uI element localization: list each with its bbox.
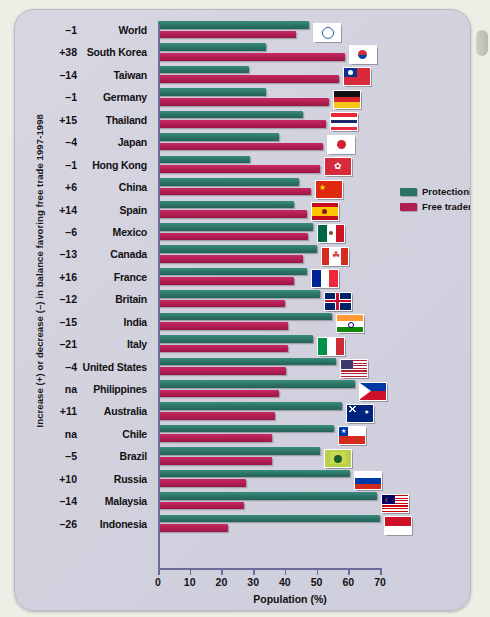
protectionists-bar[interactable] — [158, 201, 294, 209]
free-traders-bar[interactable] — [158, 75, 339, 83]
protectionists-bar[interactable] — [158, 43, 266, 51]
protectionists-bar[interactable] — [158, 290, 320, 298]
bar-group: ✿ — [144, 156, 470, 175]
chart-row: –1World — [15, 19, 470, 41]
chart-row: –14Taiwan — [15, 64, 470, 86]
protectionists-bar[interactable] — [158, 223, 313, 231]
chart-row: –4Japan — [15, 131, 470, 153]
y-axis-line — [158, 24, 160, 569]
united-states-flag — [340, 359, 368, 378]
russia-flag — [354, 471, 382, 490]
free-traders-bar[interactable] — [158, 277, 294, 285]
protectionists-bar[interactable] — [158, 133, 279, 141]
bar-group — [144, 21, 470, 40]
delta-value: +11 — [31, 405, 77, 417]
bar-group — [144, 223, 470, 242]
free-traders-bar[interactable] — [158, 188, 311, 196]
free-traders-bar[interactable] — [158, 434, 272, 442]
protectionists-bar[interactable] — [158, 335, 313, 343]
france-flag — [311, 269, 339, 288]
legend-item[interactable]: Free traders — [400, 200, 471, 213]
delta-value: +16 — [31, 271, 77, 283]
free-traders-bar[interactable] — [158, 53, 345, 61]
protectionists-bar[interactable] — [158, 88, 266, 96]
legend-label: Free traders — [422, 201, 471, 212]
protectionists-bar[interactable] — [158, 66, 249, 74]
free-traders-bar[interactable] — [158, 143, 323, 151]
delta-value: +10 — [31, 473, 77, 485]
bar-group — [144, 290, 470, 309]
delta-value: na — [31, 428, 77, 440]
free-traders-bar[interactable] — [158, 412, 275, 420]
page-edge-marker — [476, 30, 488, 56]
free-traders-bar[interactable] — [158, 457, 272, 465]
free-traders-bar[interactable] — [158, 120, 326, 128]
delta-value: –1 — [31, 159, 77, 171]
free-traders-bar[interactable] — [158, 31, 296, 39]
free-traders-bar[interactable] — [158, 165, 320, 173]
bar-group: ★ — [144, 402, 470, 421]
delta-value: –26 — [31, 518, 77, 530]
protectionists-bar[interactable] — [158, 402, 342, 410]
free-traders-bar[interactable] — [158, 300, 285, 308]
free-traders-bar[interactable] — [158, 502, 244, 510]
protectionists-bar[interactable] — [158, 425, 334, 433]
bar-group: ☘ — [144, 245, 470, 264]
country-label: Britain — [79, 293, 147, 305]
free-traders-bar[interactable] — [158, 390, 279, 398]
protectionists-bar[interactable] — [158, 515, 380, 523]
canada-flag: ☘ — [321, 247, 349, 266]
legend-swatch — [400, 203, 417, 211]
chart-row: –12Britain — [15, 288, 470, 310]
bar-group — [144, 515, 470, 534]
taiwan-flag — [343, 67, 371, 86]
chart-row: –6Mexico — [15, 221, 470, 243]
delta-value: –13 — [31, 248, 77, 260]
protectionists-bar[interactable] — [158, 358, 336, 366]
chart-row: –14Malaysia☾ — [15, 490, 470, 512]
free-traders-bar[interactable] — [158, 255, 303, 263]
chart-row: +38South Korea — [15, 41, 470, 63]
protectionists-bar[interactable] — [158, 21, 309, 29]
country-label: Chile — [79, 428, 147, 440]
protectionists-bar[interactable] — [158, 111, 303, 119]
spain-flag — [311, 202, 339, 221]
country-label: Thailand — [79, 114, 147, 126]
free-traders-bar[interactable] — [158, 367, 286, 375]
chart-row: –1Hong Kong✿ — [15, 154, 470, 176]
free-traders-bar[interactable] — [158, 210, 307, 218]
protectionists-bar[interactable] — [158, 268, 307, 276]
legend-item[interactable]: Protectionists — [400, 185, 471, 198]
x-tick-label: 40 — [274, 576, 296, 588]
chart-row: –5Brazil — [15, 445, 470, 467]
x-tick — [317, 568, 319, 575]
indonesia-flag — [384, 516, 412, 535]
protectionists-bar[interactable] — [158, 245, 317, 253]
x-tick — [221, 568, 223, 575]
free-traders-bar[interactable] — [158, 524, 228, 532]
country-label: United States — [79, 361, 147, 373]
bar-group: ☾ — [144, 492, 470, 511]
bar-group — [144, 447, 470, 466]
protectionists-bar[interactable] — [158, 178, 299, 186]
chart-panel: Increase (+) or decrease (–) in balance … — [14, 9, 471, 611]
country-label: Japan — [79, 136, 147, 148]
free-traders-bar[interactable] — [158, 233, 308, 241]
free-traders-bar[interactable] — [158, 479, 246, 487]
free-traders-bar[interactable] — [158, 345, 288, 353]
delta-value: –15 — [31, 316, 77, 328]
protectionists-bar[interactable] — [158, 380, 355, 388]
country-label: China — [79, 181, 147, 193]
country-label: Russia — [79, 473, 147, 485]
bar-group — [144, 66, 470, 85]
protectionists-bar[interactable] — [158, 156, 250, 164]
free-traders-bar[interactable] — [158, 322, 288, 330]
country-label: World — [79, 24, 147, 36]
protectionists-bar[interactable] — [158, 313, 332, 321]
delta-value: –1 — [31, 24, 77, 36]
protectionists-bar[interactable] — [158, 447, 320, 455]
protectionists-bar[interactable] — [158, 470, 350, 478]
country-label: Taiwan — [79, 69, 147, 81]
protectionists-bar[interactable] — [158, 492, 377, 500]
free-traders-bar[interactable] — [158, 98, 329, 106]
